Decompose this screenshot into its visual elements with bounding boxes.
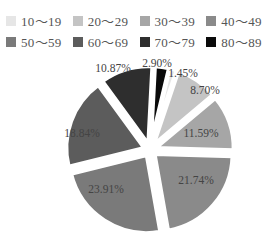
slice-label-70-79: 10.87%	[95, 62, 131, 74]
slice-label-50-59: 23.91%	[88, 183, 124, 195]
pie-slice-40-49	[155, 154, 233, 231]
slice-label-10-19: 1.45%	[168, 67, 198, 79]
slice-label-30-39: 11.59%	[183, 127, 218, 139]
pie-chart: 2.90%1.45%8.70%11.59%21.74%23.91%18.84%1…	[0, 0, 273, 240]
slice-label-20-29: 8.70%	[190, 84, 220, 96]
slice-label-40-49: 21.74%	[178, 174, 214, 186]
slice-label-60-69: 18.84%	[64, 127, 100, 139]
